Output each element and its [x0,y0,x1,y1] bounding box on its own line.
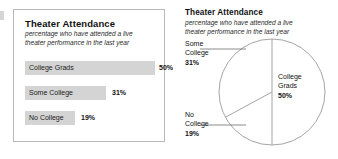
bar-label: No College [29,114,64,121]
bar-chart-subtitle-line-2: theater performance in the last year [25,39,157,47]
bar-row-college-grads: College Grads 50% [25,61,165,75]
callout-percent: 19% [185,129,209,138]
bar-chart-panel: Theater Attendance percentage who have a… [13,9,165,142]
bar-row-some-college: Some College 31% [25,86,165,100]
callout-line-1: College [278,72,302,81]
bar-value: 50% [159,64,173,71]
pie-callout-college-grads: College Grads 50% [278,72,302,100]
bar-label: College Grads [29,64,74,71]
bar-label: Some College [29,89,73,96]
callout-line-2: Grads [278,81,302,90]
pie-callout-some-college: Some College 31% [185,39,209,67]
bar-value: 19% [81,114,95,121]
callout-percent: 31% [185,58,209,67]
callout-line-1: Some [185,39,209,48]
callout-line-2: College [185,119,209,128]
bar-chart-header: Theater Attendance percentage who have a… [25,18,157,47]
pie-callout-no-college: No College 19% [185,110,209,138]
left-edge-marker [0,11,4,20]
bar-chart-subtitle-line-1: percentage who have attended a live [25,30,157,38]
callout-line-1: No [185,110,209,119]
callout-percent: 50% [278,91,302,100]
callout-line-2: College [185,48,209,57]
bar-row-no-college: No College 19% [25,111,165,125]
pie-chart-panel: Theater Attendance percentage who have a… [172,0,338,159]
bar-chart-title: Theater Attendance [25,18,157,29]
bar-value: 31% [112,89,126,96]
